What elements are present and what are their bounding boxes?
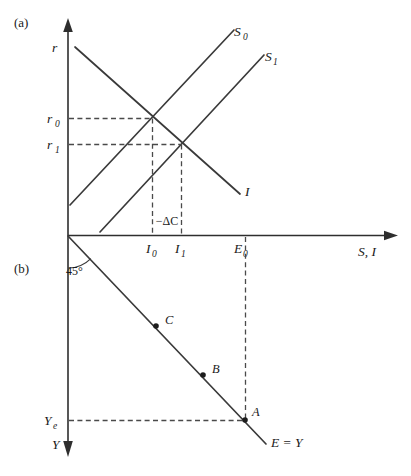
panel-b-label: (b) (14, 261, 29, 276)
figure-root: (a) r r 0 r 1 S 0 S 1 I −ΔC I 0 I 1 (0, 0, 411, 476)
annotation-angle-45: 45° (66, 264, 83, 278)
curve-label-S0-sub: 0 (243, 32, 248, 42)
curve-I (75, 47, 240, 194)
tick-label-r1-sub: 1 (55, 145, 60, 155)
panel-a-label: (a) (14, 15, 28, 30)
horizontal-axis-arrow-icon (384, 231, 398, 241)
tick-label-I1-base: I (174, 241, 181, 256)
tick-label-r0: r 0 (47, 111, 60, 129)
point-marker-B (200, 372, 206, 378)
point-label-C: C (165, 313, 174, 327)
tick-label-I0-base: I (145, 241, 152, 256)
tick-label-I1: I 1 (174, 241, 186, 259)
curve-label-S1: S 1 (265, 49, 278, 67)
point-label-A: A (251, 405, 260, 419)
curve-E-equals-Y (68, 236, 266, 444)
tick-label-r0-sub: 0 (55, 119, 60, 129)
tick-label-I0-sub: 0 (152, 249, 157, 259)
annotation-delta-c: −ΔC (156, 214, 179, 228)
vertical-axis-arrow-icon (63, 18, 73, 32)
curve-label-S0-base: S (234, 24, 241, 39)
point-marker-A (242, 417, 248, 423)
tick-label-r1-base: r (47, 137, 53, 152)
curve-label-S1-base: S (265, 49, 272, 64)
curve-label-I: I (244, 184, 251, 199)
axis-label-Y: Y (52, 437, 61, 452)
tick-label-r1: r 1 (47, 137, 60, 155)
panel-a-curves (70, 30, 264, 232)
label-E-equals-Y: E = Y (270, 435, 304, 450)
curve-label-S1-sub: 1 (273, 57, 278, 67)
point-label-B: B (212, 362, 220, 376)
tick-label-I1-sub: 1 (181, 249, 186, 259)
tick-label-Ye: Y e (44, 413, 57, 431)
point-marker-C (153, 323, 159, 329)
panel-a-axes (63, 18, 398, 240)
tick-label-E0-base: E (233, 241, 243, 256)
economics-diagram: (a) r r 0 r 1 S 0 S 1 I −ΔC I 0 I 1 (0, 0, 411, 476)
vertical-axis-down-arrow-icon (63, 441, 73, 457)
tick-label-I0: I 0 (145, 241, 157, 259)
tick-label-r0-base: r (47, 111, 53, 126)
curve-label-S0: S 0 (234, 24, 248, 42)
axis-label-S-I: S, I (358, 244, 378, 259)
tick-label-Ye-sub: e (53, 421, 57, 431)
axis-label-r: r (52, 40, 58, 55)
panel-b-markers (153, 323, 248, 423)
panel-b-curves (68, 236, 266, 444)
tick-label-Ye-base: Y (44, 413, 53, 428)
